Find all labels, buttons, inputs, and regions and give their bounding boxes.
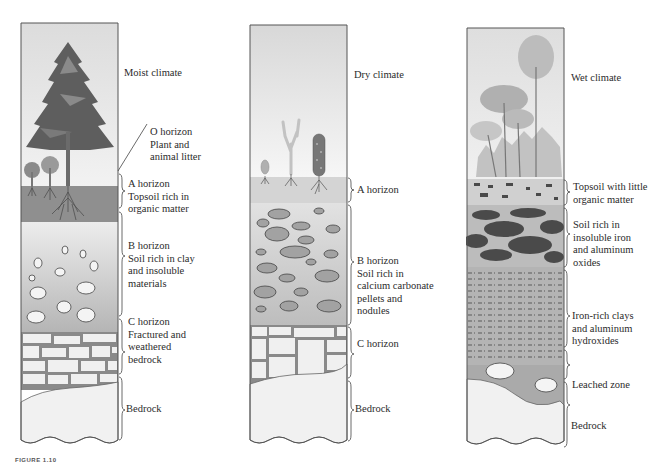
- label-moist-b-horizon: B horizon Soil rich in clay and insolubl…: [128, 240, 195, 290]
- label-moist-c-horizon: C horizon Fractured and weathered bedroc…: [128, 316, 186, 366]
- label-wet-clay-layer: Iron-rich clays and aluminum hydroxides: [572, 310, 634, 348]
- figure-caption: FIGURE 1.10: [15, 457, 57, 463]
- climate-label-moist: Moist climate: [124, 67, 182, 79]
- label-dry-bedrock: Bedrock: [355, 403, 391, 416]
- label-moist-o-horizon: O horizon Plant and animal litter: [150, 126, 201, 164]
- label-wet-oxide-layer: Soil rich in insoluble iron and aluminum…: [573, 219, 633, 269]
- label-dry-a-horizon: A horizon: [357, 184, 399, 197]
- moist-horizon-braces: [118, 172, 128, 442]
- label-dry-b-horizon: B horizon Soil rich in calcium carbonate…: [357, 255, 434, 318]
- label-moist-a-horizon: A horizon Topsoil rich in organic matter: [128, 178, 189, 216]
- label-moist-bedrock: Bedrock: [126, 403, 162, 416]
- wet-climate-profile: [466, 27, 566, 453]
- dry-climate-profile: [249, 24, 349, 450]
- moist-profile-illustration: [20, 22, 120, 448]
- climate-label-wet: Wet climate: [571, 72, 621, 84]
- climate-label-dry: Dry climate: [354, 69, 404, 81]
- label-wet-bedrock: Bedrock: [571, 420, 607, 433]
- o-horizon-leader-line: [115, 123, 150, 173]
- dry-profile-illustration: [249, 24, 349, 450]
- label-wet-topsoil: Topsoil with little organic matter: [573, 181, 648, 206]
- wet-profile-illustration: [466, 27, 566, 453]
- label-wet-leached-zone: Leached zone: [572, 379, 630, 392]
- moist-climate-profile: [20, 22, 120, 448]
- label-dry-c-horizon: C horizon: [357, 338, 399, 351]
